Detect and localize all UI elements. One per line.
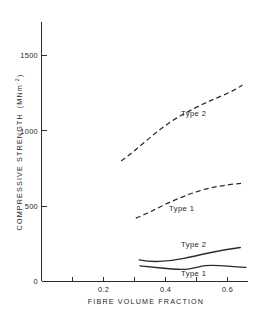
series-label-type-2-solid: Type 2 (181, 240, 207, 249)
x-ticklabel-0.2: 0.2 (98, 285, 109, 294)
svg-text:COMPRESSIVE STRENGTH(MNm-2): COMPRESSIVE STRENGTH(MNm-2) (14, 74, 24, 231)
y-axis-units-exponent: -2 (14, 77, 20, 84)
y-ticklabel-500: 500 (25, 202, 38, 211)
curve-type-2-dashed (121, 85, 242, 161)
series-labels: Type 2 Type 1 Type 2 Type 1 (169, 109, 207, 278)
series-label-type-1-dashed: Type 1 (169, 204, 195, 213)
curve-type-2-solid (139, 248, 240, 262)
x-axis-ticklabels: 0.2 0.4 0.6 (98, 285, 233, 294)
x-axis-title: FIBRE VOLUME FRACTION (88, 297, 204, 306)
x-ticklabel-0.4: 0.4 (160, 285, 171, 294)
x-axis-ticks (73, 277, 228, 282)
x-ticklabel-0.6: 0.6 (222, 285, 233, 294)
series-label-type-1-solid: Type 1 (181, 269, 207, 278)
y-axis-title-group: COMPRESSIVE STRENGTH(MNm-2) (14, 74, 24, 231)
curve-type-1-dashed (136, 183, 244, 218)
series-label-type-2-dashed: Type 2 (181, 109, 207, 118)
figure-container: 0 500 1000 1500 0.2 0.4 0.6 FIBRE VOLUME… (0, 0, 266, 312)
y-ticklabel-1500: 1500 (20, 51, 38, 60)
y-axis-units-open: (MNm (15, 84, 24, 108)
y-axis-title: COMPRESSIVE STRENGTH (15, 113, 24, 230)
axes-group (42, 22, 249, 282)
y-axis-ticks (42, 56, 47, 282)
compressive-strength-chart: 0 500 1000 1500 0.2 0.4 0.6 FIBRE VOLUME… (0, 0, 266, 312)
y-ticklabel-0: 0 (34, 277, 38, 286)
y-axis-units-close: ) (15, 74, 24, 78)
